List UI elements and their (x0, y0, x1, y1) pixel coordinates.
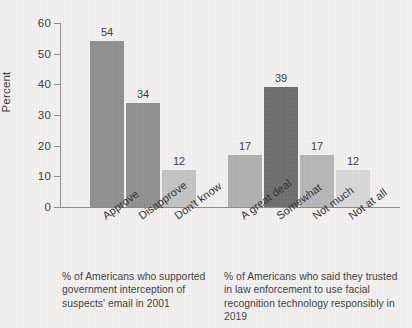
y-tick-label: 30 (38, 109, 51, 121)
bar-value-label: 39 (275, 72, 287, 84)
bar-value-label: 17 (311, 140, 323, 152)
bar-value-label: 12 (347, 155, 359, 167)
bar-value-label: 34 (137, 88, 149, 100)
bar-value-label: 17 (239, 140, 251, 152)
tick-mark-icon (54, 84, 60, 85)
bar-value-label: 12 (173, 155, 185, 167)
tick-mark-icon (54, 23, 60, 24)
y-tick-label: 20 (38, 140, 51, 152)
y-tick-label: 60 (38, 17, 51, 29)
bar-chart-figure: 0102030405060 54341217391712 Percent App… (0, 0, 412, 328)
category-labels: ApproveDisapproveDon't knowA great dealS… (60, 212, 412, 268)
y-tick-label: 50 (38, 48, 51, 60)
tick-mark-icon (54, 115, 60, 116)
y-axis-line (60, 23, 61, 207)
tick-mark-icon (54, 54, 60, 55)
bar-value-label: 54 (101, 26, 113, 38)
caption-left: % of Americans who supported government … (62, 270, 212, 310)
tick-mark-icon (54, 207, 60, 208)
y-tick-label: 10 (38, 170, 51, 182)
tick-mark-icon (54, 176, 60, 177)
caption-right: % of Americans who said they trusted in … (224, 270, 402, 324)
tick-mark-icon (54, 146, 60, 147)
y-axis-title: Percent (0, 71, 12, 112)
plot-area: 0102030405060 54341217391712 (60, 23, 400, 207)
y-tick-label: 40 (38, 78, 51, 90)
bar: 54 (90, 41, 124, 207)
y-tick-label: 0 (44, 201, 51, 213)
